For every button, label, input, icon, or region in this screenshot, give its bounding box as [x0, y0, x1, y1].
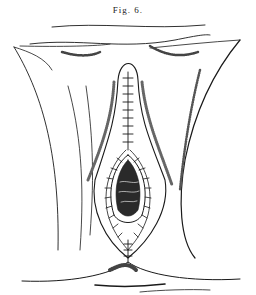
engraving-illustration: [0, 0, 256, 295]
side-contours: [14, 40, 240, 258]
wound-opening: [111, 155, 145, 223]
suture-line-lower: [124, 240, 132, 262]
lower-contours: [22, 262, 240, 292]
incision-outline: [88, 64, 172, 259]
suture-line-upper: [123, 72, 133, 150]
